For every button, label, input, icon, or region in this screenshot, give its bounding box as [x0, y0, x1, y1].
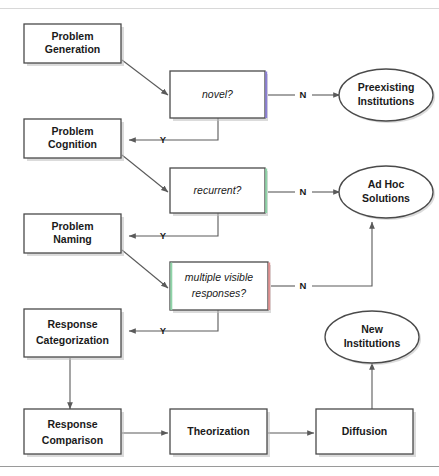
branch-label-recurrent-no: N — [300, 186, 307, 197]
decision-label-line1: multiple visible — [185, 271, 253, 283]
edge-multiple-yes — [129, 310, 218, 331]
terminal-label-line2: Solutions — [362, 192, 410, 204]
terminal-label-line1: Preexisting — [358, 81, 415, 93]
terminal-node-ad-hoc-solutions[interactable]: Ad Hoc Solutions — [339, 166, 435, 220]
process-node-problem-naming[interactable]: Problem Naming — [24, 214, 121, 253]
process-node-theorization[interactable]: Theorization — [170, 409, 267, 454]
terminal-label-line2: Institutions — [344, 337, 401, 349]
branch-label-multiple-no: N — [300, 280, 307, 291]
edge-novel-yes — [129, 118, 218, 140]
node-label-line2: Categorization — [36, 334, 109, 346]
node-label-line2: Generation — [45, 43, 100, 55]
process-node-problem-generation[interactable]: Problem Generation — [24, 24, 121, 63]
edge-naming-to-multiple — [122, 250, 168, 288]
figure-canvas: Problem Generation Problem Cognition Pro… — [0, 0, 439, 476]
terminal-label-line1: Ad Hoc — [368, 178, 405, 190]
branch-label-multiple-yes: Y — [160, 325, 167, 336]
decision-label-line1: novel? — [202, 88, 233, 100]
edge-recurrent-yes — [129, 213, 218, 236]
terminal-node-new-institutions[interactable]: New Institutions — [325, 311, 421, 365]
edge-multiple-no-arrow — [312, 222, 372, 286]
terminal-label-line2: Institutions — [358, 95, 415, 107]
node-label-line1: Theorization — [187, 425, 249, 437]
node-label-line1: Problem — [51, 125, 93, 137]
terminal-node-preexisting-institutions[interactable]: Preexisting Institutions — [339, 69, 435, 123]
node-label-line1: Problem — [51, 220, 93, 232]
node-label-line2: Naming — [53, 233, 92, 245]
process-node-problem-cognition[interactable]: Problem Cognition — [24, 119, 121, 158]
process-node-response-categorization[interactable]: Response Categorization — [24, 309, 121, 357]
node-label-line1: Response — [47, 418, 97, 430]
branch-label-novel-no: N — [300, 89, 307, 100]
node-label-line2: Comparison — [42, 434, 103, 446]
node-label-line2: Cognition — [48, 138, 97, 150]
edge-generation-to-novel — [122, 60, 168, 95]
node-label-line1: Response — [47, 318, 97, 330]
process-node-diffusion[interactable]: Diffusion — [316, 409, 413, 454]
terminal-label-line1: New — [361, 323, 383, 335]
decision-node-recurrent[interactable]: recurrent? — [170, 168, 266, 213]
decision-label-line1: recurrent? — [194, 184, 242, 196]
node-label-line1: Diffusion — [342, 425, 388, 437]
flowchart-diagram: Problem Generation Problem Cognition Pro… — [0, 0, 439, 476]
node-label-line1: Problem — [51, 30, 93, 42]
edge-cognition-to-recurrent — [122, 155, 168, 192]
decision-node-novel[interactable]: novel? — [170, 71, 266, 118]
branch-label-recurrent-yes: Y — [160, 230, 167, 241]
decision-node-multiple-visible-responses[interactable]: multiple visible responses? — [170, 262, 269, 310]
branch-label-novel-yes: Y — [160, 134, 167, 145]
decision-label-line2: responses? — [192, 287, 246, 299]
process-node-response-comparison[interactable]: Response Comparison — [24, 409, 121, 454]
